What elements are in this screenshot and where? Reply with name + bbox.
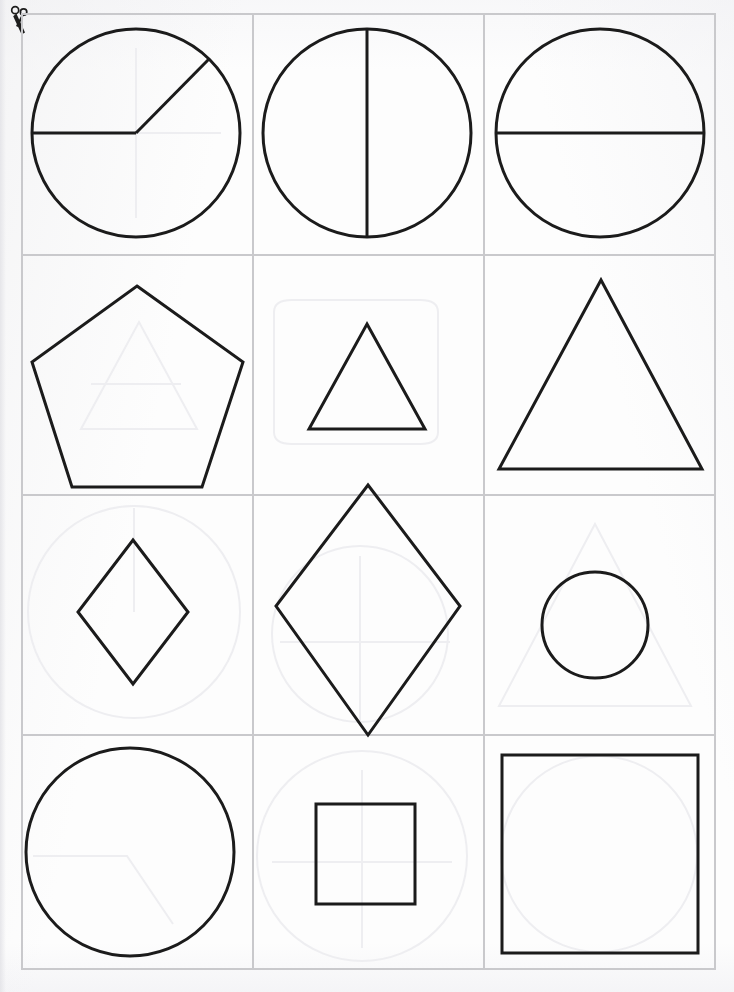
- shape-cell-9[interactable]: [483, 494, 714, 734]
- shape-cell-12[interactable]: [483, 734, 714, 968]
- grid-line-vertical: [714, 13, 716, 970]
- shape-cell-8[interactable]: [252, 494, 483, 734]
- worksheet-page: [0, 0, 734, 992]
- shape-cell-2[interactable]: [252, 13, 483, 254]
- sheet-edge-shadow: [0, 0, 6, 992]
- shape-cell-11[interactable]: [252, 734, 483, 968]
- worksheet-grid: [21, 13, 716, 970]
- shape-cell-1[interactable]: [21, 13, 252, 254]
- shape-cell-10[interactable]: [21, 734, 252, 968]
- shape-cell-4[interactable]: [21, 254, 252, 494]
- shape-cell-5[interactable]: [252, 254, 483, 494]
- shape-cell-3[interactable]: [483, 13, 714, 254]
- shape-cell-7[interactable]: [21, 494, 252, 734]
- grid-line-horizontal: [21, 968, 716, 970]
- shape-cell-6[interactable]: [483, 254, 714, 494]
